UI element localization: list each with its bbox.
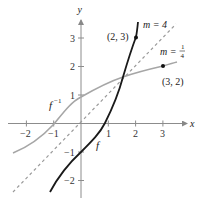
function-inverse-graph: x y −2 −1 1 2 3 3 2 1 −1 −2 (2, 3) (3, 2… (0, 0, 198, 202)
y-tick-label: 1 (70, 90, 75, 101)
y-axis-label: y (77, 4, 83, 15)
x-tick-label: 1 (106, 128, 111, 139)
x-tick-label: −2 (20, 128, 31, 139)
f-curve (50, 22, 138, 192)
point-2-3 (134, 36, 138, 40)
f-label: f (96, 139, 101, 151)
x-axis-label: x (189, 118, 195, 129)
f-inverse-curve (13, 62, 177, 153)
slope-fraction-num: 1 (181, 43, 185, 51)
slope-label-m4: m = 4 (143, 19, 167, 30)
identity-line (13, 24, 176, 192)
slope-fraction-den: 4 (181, 52, 185, 60)
y-tick-label: −2 (64, 175, 75, 186)
point-label-3-2: (3, 2) (162, 76, 184, 88)
point-label-2-3: (2, 3) (107, 31, 129, 43)
slope-label-m-quarter: m = (160, 46, 176, 57)
point-3-2 (161, 64, 165, 68)
f-inverse-sup: −1 (54, 97, 62, 105)
y-tick-label: −1 (64, 147, 75, 158)
x-tick-label: 3 (160, 128, 165, 139)
x-tick-label: 2 (133, 128, 138, 139)
y-tick-label: 2 (70, 61, 75, 72)
y-tick-label: 3 (70, 33, 75, 44)
